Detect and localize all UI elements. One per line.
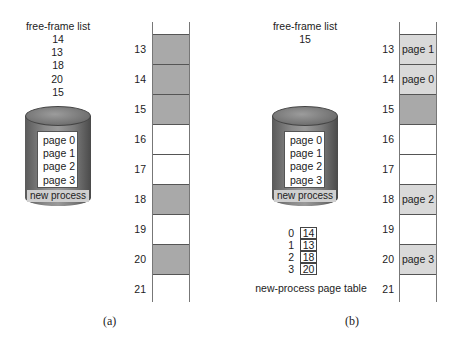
frame-cell xyxy=(400,94,436,124)
frame-cell xyxy=(153,274,189,302)
frame-cell xyxy=(153,34,189,64)
frame-cell xyxy=(153,244,189,274)
disk-cylinder: page 0 page 1 page 2 page 3 new process xyxy=(272,106,338,212)
free-frame-item: 13 xyxy=(37,46,77,58)
frame-number: 14 xyxy=(374,73,394,85)
disk-page: page 1 xyxy=(285,147,324,160)
disk-page: page 3 xyxy=(285,174,324,187)
page-table-frame: 18 xyxy=(300,251,317,263)
frame-number: 18 xyxy=(374,193,394,205)
frame-cell xyxy=(153,64,189,94)
frame-cell: page 2 xyxy=(400,184,436,214)
frame-number: 17 xyxy=(126,163,146,175)
frame-cell xyxy=(400,124,436,154)
free-frame-item: 15 xyxy=(38,86,78,98)
frame-number: 18 xyxy=(126,193,146,205)
frame-number: 20 xyxy=(126,253,146,265)
frame-cell xyxy=(153,154,189,184)
free-frame-item: 14 xyxy=(38,33,78,45)
caption-b: (b) xyxy=(345,314,359,329)
caption-a: (a) xyxy=(103,314,116,329)
frame-number: 19 xyxy=(374,223,394,235)
frame-number: 16 xyxy=(126,133,146,145)
free-frame-item: 15 xyxy=(285,33,325,45)
frame-number: 17 xyxy=(374,163,394,175)
free-frame-list-title: free-frame list xyxy=(0,20,118,32)
frame-cell xyxy=(153,214,189,244)
disk-cylinder: page 0 page 1 page 2 page 3 new process xyxy=(25,106,91,212)
free-frame-item: 18 xyxy=(38,59,78,71)
disk-page: page 2 xyxy=(285,160,324,173)
frame-number: 21 xyxy=(126,283,146,295)
frame-number: 20 xyxy=(374,253,394,265)
frame-cell xyxy=(153,124,189,154)
frame-number: 21 xyxy=(374,283,394,295)
page-table-index: 2 xyxy=(284,251,294,263)
frame-number: 15 xyxy=(126,103,146,115)
page-table-index: 0 xyxy=(284,227,294,239)
frame-cell xyxy=(153,94,189,124)
frame-number: 14 xyxy=(126,73,146,85)
frame-number: 16 xyxy=(374,133,394,145)
page-table-index: 3 xyxy=(284,263,294,275)
page-table-index: 1 xyxy=(284,239,294,251)
frame-cell: page 3 xyxy=(400,244,436,274)
frame-cell: page 1 xyxy=(400,34,436,64)
frame-number: 13 xyxy=(374,43,394,55)
frame-number: 15 xyxy=(374,103,394,115)
frame-cell xyxy=(400,274,436,302)
free-frame-list-title: free-frame list xyxy=(245,20,365,32)
disk-page: page 3 xyxy=(38,174,77,187)
disk-page: page 0 xyxy=(285,134,324,147)
physical-memory-frames: page 1 page 0 page 2 page 3 xyxy=(399,22,437,302)
frame-cell xyxy=(400,154,436,184)
page-table-label: new-process page table xyxy=(251,282,371,294)
frame-number: 13 xyxy=(126,43,146,55)
frame-cell: page 0 xyxy=(400,64,436,94)
free-frame-item: 20 xyxy=(37,73,77,85)
page-table-frame: 14 xyxy=(300,227,317,239)
frame-cell xyxy=(400,214,436,244)
page-table-frame: 20 xyxy=(300,263,317,275)
disk-top xyxy=(272,106,338,126)
process-pages-box: page 0 page 1 page 2 page 3 xyxy=(37,131,78,188)
page-table-frame: 13 xyxy=(300,239,317,251)
disk-page: page 0 xyxy=(38,134,77,147)
disk-top xyxy=(25,106,91,126)
disk-page: page 1 xyxy=(38,147,77,160)
frame-number: 19 xyxy=(126,223,146,235)
physical-memory-frames xyxy=(152,22,190,302)
disk-page: page 2 xyxy=(38,160,77,173)
frame-cell xyxy=(153,184,189,214)
process-pages-box: page 0 page 1 page 2 page 3 xyxy=(284,131,325,188)
disk-label: new process xyxy=(274,190,336,202)
disk-label: new process xyxy=(27,190,89,202)
